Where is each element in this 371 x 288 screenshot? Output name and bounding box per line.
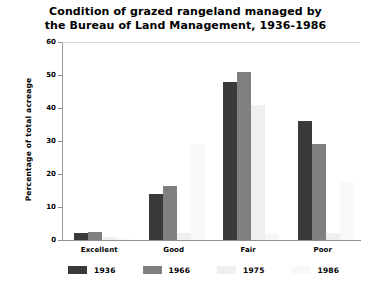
legend-label-1966: 1966 <box>169 266 191 275</box>
bar-fair-1986 <box>265 233 279 240</box>
legend-label-1975: 1975 <box>243 266 265 275</box>
y-tick-text: 50 <box>30 71 56 79</box>
x-axis-label-poor: Poor <box>286 246 361 254</box>
bar-poor-1986 <box>340 182 354 240</box>
chart-title: Condition of grazed rangeland managed by… <box>0 5 371 33</box>
bar-good-1986 <box>191 144 205 240</box>
bar-good-1975 <box>177 233 191 240</box>
y-tick-text: 10 <box>30 203 56 211</box>
legend-swatch-1986 <box>292 266 311 274</box>
bar-excellent-1966 <box>88 232 102 240</box>
y-tick-label: 30 <box>30 137 56 146</box>
bar-excellent-1936 <box>74 233 88 240</box>
y-tick-label: 10 <box>30 203 56 212</box>
legend-swatch-1936 <box>68 266 87 274</box>
legend: 1936196619751986 <box>62 264 362 278</box>
legend-swatch-1966 <box>143 266 162 274</box>
bar-good-1966 <box>163 186 177 240</box>
chart-title-line-1: Condition of grazed rangeland managed by <box>49 5 322 18</box>
y-tick-text: 20 <box>30 170 56 178</box>
bar-poor-1936 <box>298 121 312 240</box>
legend-item-1966[interactable]: 1966 <box>143 264 191 276</box>
bar-poor-1966 <box>312 144 326 240</box>
legend-swatch-1975 <box>217 266 236 274</box>
y-tick-text: 40 <box>30 104 56 112</box>
bar-good-1936 <box>149 194 163 240</box>
bar-fair-1936 <box>223 82 237 240</box>
x-axis-label-excellent: Excellent <box>62 246 137 254</box>
chart-title-line-2: the Bureau of Land Management, 1936-1986 <box>0 19 371 33</box>
x-axis-label-good: Good <box>137 246 212 254</box>
y-tick-text: 0 <box>30 236 56 244</box>
y-tick-label: 0 <box>30 236 56 245</box>
y-tick-text: 30 <box>30 137 56 145</box>
y-tick-label: 20 <box>30 170 56 179</box>
bar-fair-1975 <box>251 105 265 240</box>
y-tick-text: 60 <box>30 38 56 46</box>
legend-item-1986[interactable]: 1986 <box>292 264 340 276</box>
y-tick-label: 50 <box>30 71 56 80</box>
legend-item-1936[interactable]: 1936 <box>68 264 116 276</box>
x-axis-label-fair: Fair <box>211 246 286 254</box>
x-axis-line <box>62 240 361 241</box>
bar-fair-1966 <box>237 72 251 240</box>
legend-item-1975[interactable]: 1975 <box>217 264 265 276</box>
y-tick-label: 40 <box>30 104 56 113</box>
legend-label-1936: 1936 <box>94 266 116 275</box>
plot-area <box>62 42 360 240</box>
legend-label-1986: 1986 <box>318 266 340 275</box>
bar-poor-1975 <box>326 233 340 240</box>
y-tick-label: 60 <box>30 38 56 47</box>
bar-chart: Condition of grazed rangeland managed by… <box>0 0 371 288</box>
